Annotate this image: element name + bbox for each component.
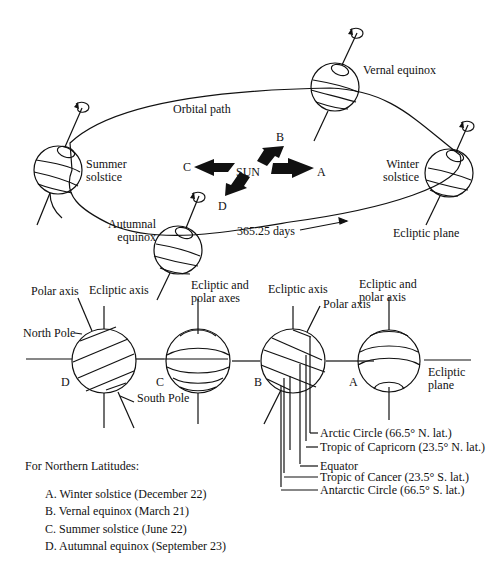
arrow-label-d: D [218, 200, 227, 213]
globe-b-letter: B [254, 376, 262, 389]
globe-d-diagram [26, 298, 164, 428]
globe-c-letter: C [156, 376, 164, 389]
arctic-circle-label: Arctic Circle (66.5° N. lat.) [320, 427, 452, 440]
globe-a-ecliptic-plane-label: Eclipticplane [428, 366, 465, 392]
orbital-path-label: Orbital path [173, 103, 231, 116]
winter-solstice-label: Wintersolstice [383, 158, 419, 184]
tropic-capricorn-label: Tropic of Capricorn (23.5° N. lat.) [320, 441, 485, 454]
autumnal-equinox-label: Autumnalequinox [108, 218, 156, 244]
legend-title: For Northern Latitudes: [25, 458, 226, 476]
globe-d-letter: D [61, 376, 70, 389]
antarctic-circle-label: Antarctic Circle (66.5° S. lat.) [320, 484, 464, 497]
globe-a-axes-label: Ecliptic andpolar axis [359, 278, 417, 304]
globe-a-letter: A [349, 376, 358, 389]
legend-item: A. Winter solstice (December 22) [45, 486, 226, 504]
legend-item: B. Vernal equinox (March 21) [45, 503, 226, 521]
globe-a-diagram [354, 297, 471, 420]
globe-b-ecliptic-axis-label: Ecliptic axis [268, 283, 328, 296]
globe-d-north-pole-label: North Pole [23, 327, 75, 340]
arrow-label-a: A [317, 166, 326, 179]
globe-d-polar-axis-label: Polar axis [31, 285, 79, 298]
globe-winter-solstice [425, 121, 474, 225]
days-label: 365.25 days [237, 225, 295, 238]
summer-solstice-label: Summersolstice [86, 158, 127, 184]
ecliptic-plane-orbit-label: Ecliptic plane [393, 227, 459, 240]
globe-vernal-equinox [311, 28, 363, 141]
legend-item: C. Summer solstice (June 22) [45, 521, 226, 539]
arrow-label-c: C [183, 161, 191, 174]
globe-c-axes-label: Ecliptic andpolar axes [191, 279, 249, 305]
globe-d-south-pole-label: South Pole [137, 392, 189, 405]
globe-d-ecliptic-axis-label: Ecliptic axis [89, 284, 149, 297]
arrow-label-b: B [276, 131, 284, 144]
legend-item: D. Autumnal equinox (September 23) [45, 538, 226, 556]
vernal-equinox-label: Vernal equinox [363, 64, 436, 77]
sun-label: SUN [236, 166, 260, 179]
legend: For Northern Latitudes: A. Winter solsti… [25, 458, 226, 556]
globe-c-diagram [164, 299, 230, 424]
